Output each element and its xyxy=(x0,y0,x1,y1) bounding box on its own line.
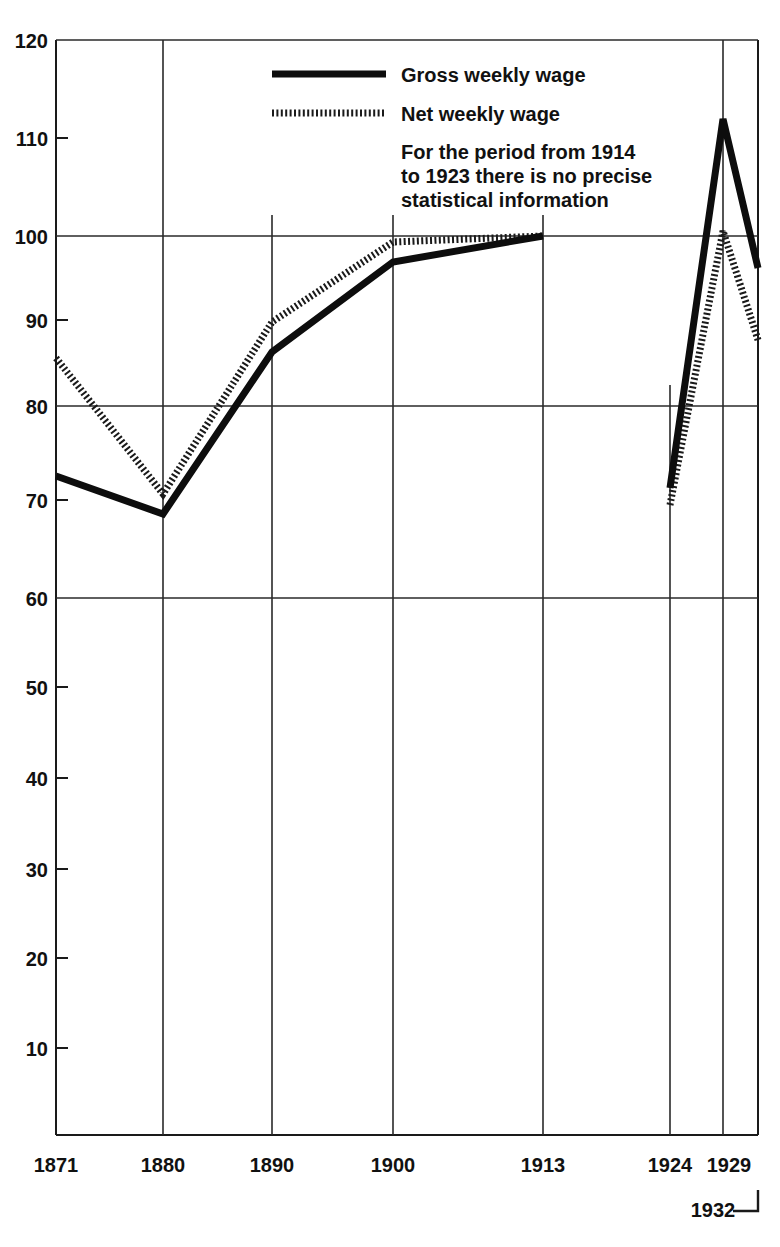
x-tick-label-1880: 1880 xyxy=(141,1154,186,1176)
y-tick-label-20: 20 xyxy=(26,948,48,970)
y-tick-label-120: 120 xyxy=(15,30,48,52)
y-tick-label-40: 40 xyxy=(26,768,48,790)
series-net-segment-1871-1913 xyxy=(56,236,543,494)
series-net-weekly-wage xyxy=(56,231,758,505)
note-line-2: to 1923 there is no precise xyxy=(401,165,652,187)
note-line-3: statistical information xyxy=(401,189,609,211)
wage-index-line-chart: 120 110 100 90 80 70 60 50 40 30 20 10 1… xyxy=(0,0,780,1247)
y-axis-tick-marks xyxy=(56,138,68,1048)
legend-label-net-weekly-wage: Net weekly wage xyxy=(401,103,560,125)
series-net-segment-1924-1932 xyxy=(670,231,758,505)
series-gross-segment-1871-1913 xyxy=(56,236,543,514)
x-tick-label-1929: 1929 xyxy=(707,1154,752,1176)
x-tick-label-1900: 1900 xyxy=(371,1154,416,1176)
chart-note-annotation: For the period from 1914 to 1923 there i… xyxy=(401,141,652,211)
y-tick-label-50: 50 xyxy=(26,677,48,699)
y-tick-label-30: 30 xyxy=(26,859,48,881)
y-tick-label-80: 80 xyxy=(26,396,48,418)
x-tick-label-1890: 1890 xyxy=(250,1154,295,1176)
series-gross-segment-1924-1932 xyxy=(670,119,758,488)
y-tick-label-110: 110 xyxy=(16,128,48,150)
y-tick-label-70: 70 xyxy=(26,490,48,512)
x-tick-1932-connector xyxy=(733,1190,758,1211)
chart-legend: Gross weekly wage Net weekly wage xyxy=(272,64,586,125)
x-axis-tick-labels: 1871 1880 1890 1900 1913 1924 1929 1932 xyxy=(34,1154,758,1221)
legend-label-gross-weekly-wage: Gross weekly wage xyxy=(401,64,586,86)
x-tick-label-1932: 1932 xyxy=(691,1199,736,1221)
x-tick-label-1871: 1871 xyxy=(34,1154,79,1176)
y-axis-tick-labels: 120 110 100 90 80 70 60 50 40 30 20 10 xyxy=(15,30,48,1060)
y-tick-label-90: 90 xyxy=(26,310,48,332)
x-tick-label-1913: 1913 xyxy=(521,1154,566,1176)
note-line-1: For the period from 1914 xyxy=(401,141,636,163)
y-tick-label-10: 10 xyxy=(26,1038,48,1060)
chart-canvas: 120 110 100 90 80 70 60 50 40 30 20 10 1… xyxy=(0,0,780,1247)
y-tick-label-60: 60 xyxy=(26,588,48,610)
y-tick-label-100: 100 xyxy=(15,226,48,248)
x-tick-label-1924: 1924 xyxy=(648,1154,693,1176)
